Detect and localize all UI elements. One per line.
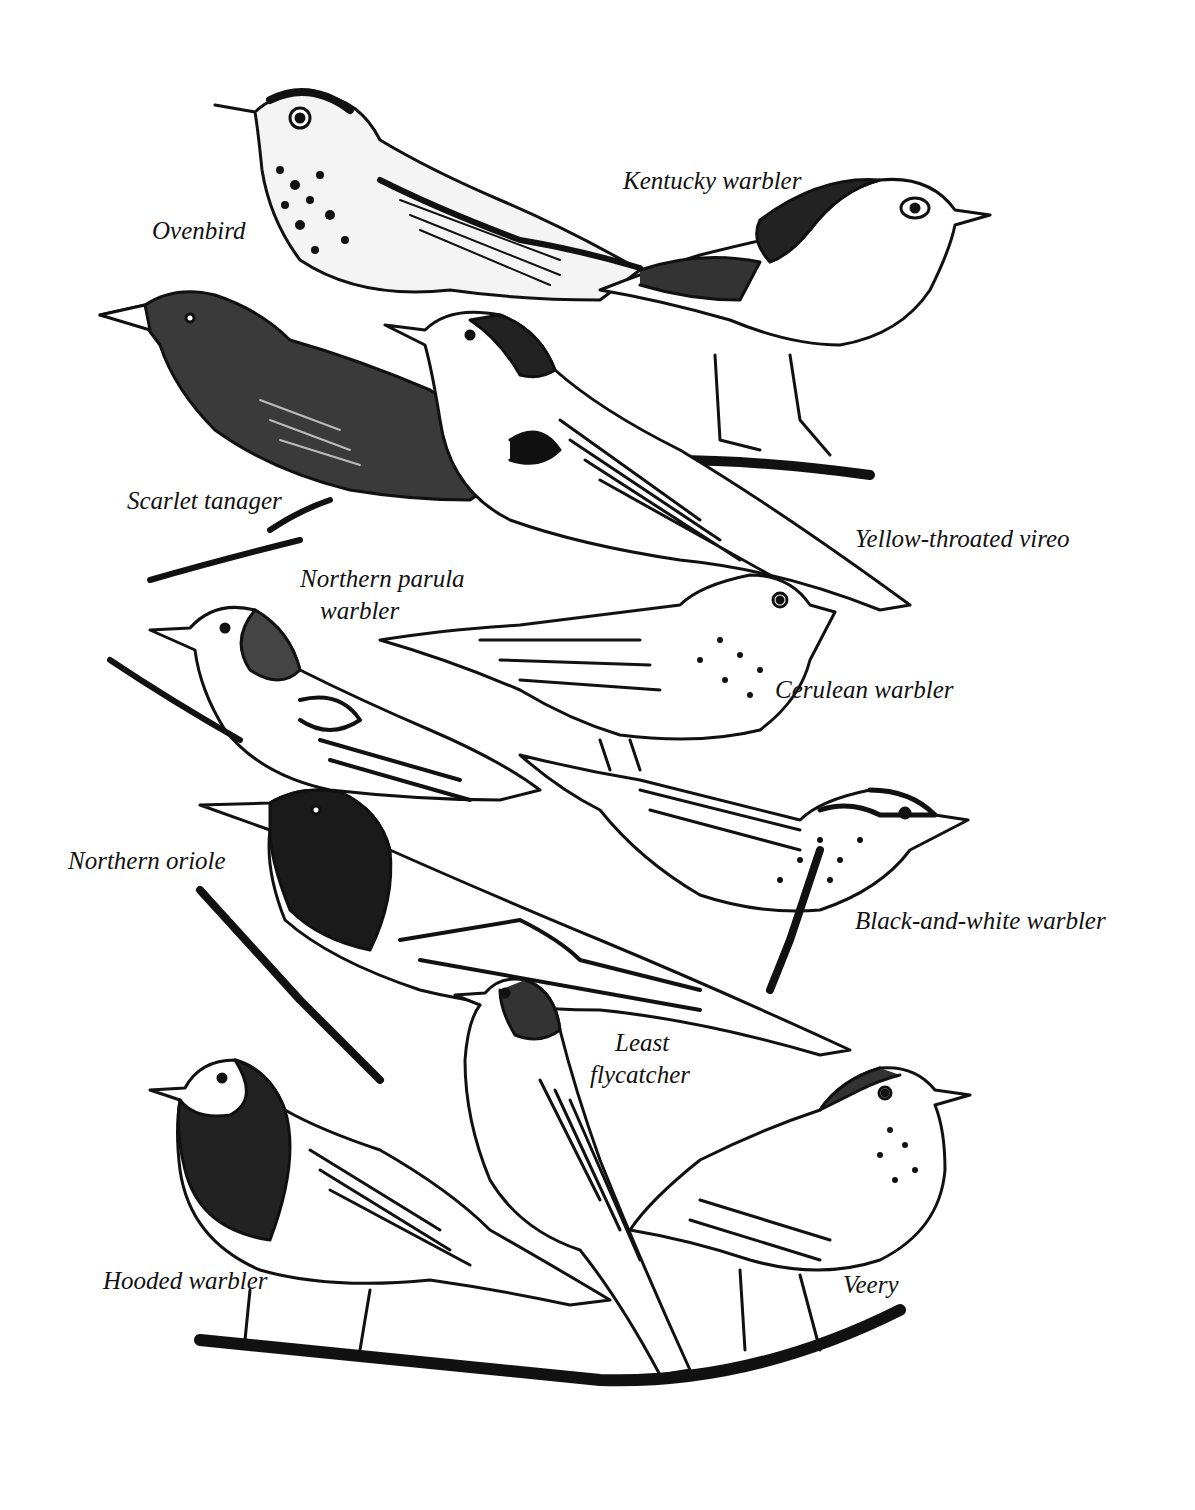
- label-hooded-warbler: Hooded warbler: [103, 1268, 268, 1294]
- label-kentucky-warbler: Kentucky warbler: [623, 168, 801, 194]
- label-black-and-white-warbler: Black-and-white warbler: [855, 908, 1106, 934]
- label-northern-parula-warbler-line1: Northern parula: [300, 566, 465, 592]
- label-least-flycatcher-line2: flycatcher: [590, 1062, 690, 1088]
- label-yellow-throated-vireo: Yellow-throated vireo: [855, 526, 1070, 552]
- label-veery: Veery: [843, 1272, 899, 1298]
- ovenbird-drawing: [215, 92, 640, 300]
- bird-illustration-plate: Ovenbird Kentucky warbler Scarlet tanage…: [0, 0, 1195, 1510]
- veery-drawing: [630, 1068, 970, 1350]
- label-least-flycatcher-line1: Least: [615, 1030, 669, 1056]
- label-ovenbird: Ovenbird: [152, 218, 246, 244]
- label-northern-oriole: Northern oriole: [68, 848, 226, 874]
- label-cerulean-warbler: Cerulean warbler: [775, 677, 953, 703]
- branch-drawing: [200, 1310, 900, 1380]
- label-northern-parula-warbler-line2: warbler: [320, 598, 399, 624]
- label-scarlet-tanager: Scarlet tanager: [127, 488, 282, 514]
- kentucky-warbler-drawing: [600, 179, 990, 475]
